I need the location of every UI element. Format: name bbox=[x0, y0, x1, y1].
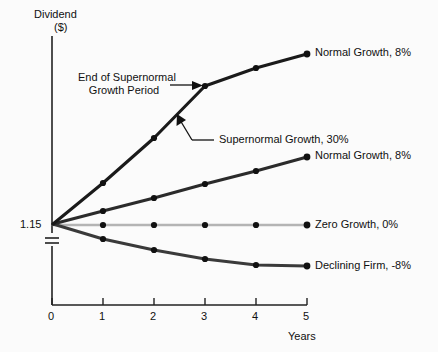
data-point bbox=[202, 222, 208, 228]
y-value-label: 1.15 bbox=[20, 218, 41, 230]
annotation-end-supernormal-line1: End of Supernormal bbox=[78, 71, 170, 83]
data-point bbox=[100, 180, 106, 186]
data-point bbox=[253, 65, 259, 71]
y-axis-title-line2: ($) bbox=[54, 21, 67, 33]
data-point bbox=[100, 222, 106, 228]
data-point bbox=[304, 154, 311, 161]
annotation-end-supernormal-line2: Growth Period bbox=[78, 84, 170, 96]
data-point bbox=[100, 236, 106, 242]
x-tick-label-2: 2 bbox=[150, 310, 156, 322]
series-label-zero-end: Zero Growth, 0% bbox=[315, 218, 398, 230]
x-tick-label-1: 1 bbox=[99, 310, 105, 322]
data-point bbox=[202, 83, 208, 89]
data-point bbox=[202, 181, 208, 187]
data-point bbox=[253, 262, 259, 268]
y-axis-title-line1: Dividend bbox=[34, 8, 77, 20]
data-point bbox=[304, 51, 311, 58]
data-point bbox=[253, 222, 259, 228]
x-tick-label-4: 4 bbox=[252, 310, 258, 322]
data-point bbox=[151, 222, 157, 228]
data-point bbox=[151, 135, 157, 141]
series-label-declining-end: Declining Firm, -8% bbox=[315, 259, 411, 271]
data-point bbox=[304, 222, 311, 229]
chart-figure: Dividend ($) 1.15 0 1 2 3 4 5 Years Norm… bbox=[0, 0, 438, 352]
x-axis-title: Years bbox=[288, 330, 316, 342]
series-label-normal-end: Normal Growth, 8% bbox=[315, 149, 411, 161]
x-tick-label-5: 5 bbox=[303, 310, 309, 322]
data-point bbox=[304, 263, 311, 270]
annotation-supernormal-label: Supernormal Growth, 30% bbox=[219, 133, 349, 145]
x-tick-label-0: 0 bbox=[48, 310, 54, 322]
x-tick-label-3: 3 bbox=[201, 310, 207, 322]
data-point bbox=[100, 208, 106, 214]
series-label-supernormal-end: Normal Growth, 8% bbox=[315, 46, 411, 58]
data-point bbox=[202, 256, 208, 262]
data-point bbox=[253, 168, 259, 174]
data-point bbox=[151, 195, 157, 201]
data-point bbox=[151, 247, 157, 253]
